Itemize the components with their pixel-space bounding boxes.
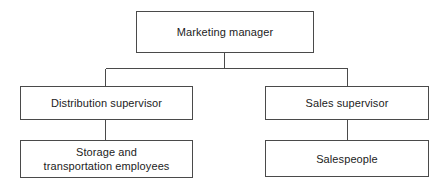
node-label-marketing-manager: Marketing manager xyxy=(173,25,277,39)
node-salespeople[interactable]: Salespeople xyxy=(265,140,429,177)
node-marketing-manager[interactable]: Marketing manager xyxy=(136,11,314,53)
node-storage-and-transportation-employees[interactable]: Storage and transportation employees xyxy=(20,140,193,178)
node-sales-supervisor[interactable]: Sales supervisor xyxy=(265,86,429,120)
org-chart-diagram: Marketing manager Distribution superviso… xyxy=(0,0,440,189)
node-label-sales-supervisor: Sales supervisor xyxy=(302,96,393,110)
node-label-salespeople: Salespeople xyxy=(312,152,382,166)
node-label-storage-and-transportation-employees: Storage and transportation employees xyxy=(40,145,174,173)
node-distribution-supervisor[interactable]: Distribution supervisor xyxy=(20,86,193,120)
node-label-distribution-supervisor: Distribution supervisor xyxy=(47,96,166,110)
